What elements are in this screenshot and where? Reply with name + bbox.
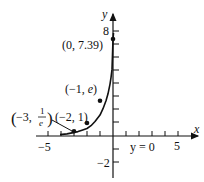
point-label-0: (0, 7.39) <box>62 38 103 52</box>
point-label-neg1: (−1, e) <box>65 82 97 96</box>
point-label-neg2: (−2, 1) <box>55 110 88 124</box>
x-axis-label: x <box>193 122 200 136</box>
exponential-graph: x y −5 5 8 −2 y = 0 (0, 7.39) (−1, e) (−… <box>0 0 204 182</box>
point-label-neg3: ( −3, 1 e ) <box>11 106 53 128</box>
point-0 <box>111 37 116 42</box>
tick-label-8: 8 <box>103 24 109 38</box>
point-neg1 <box>98 98 103 103</box>
tick-label-5: 5 <box>174 139 180 153</box>
tick-label-neg2: −2 <box>97 156 110 170</box>
svg-text:e: e <box>39 118 43 128</box>
point-neg3 <box>72 129 77 134</box>
y-ticks <box>113 31 119 162</box>
asymptote-label: y = 0 <box>130 140 155 154</box>
svg-text:): ) <box>47 109 53 128</box>
y-axis-label: y <box>101 7 108 21</box>
tick-label-neg5: −5 <box>38 140 51 154</box>
svg-text:−3,: −3, <box>16 110 32 124</box>
svg-text:1: 1 <box>40 106 45 116</box>
